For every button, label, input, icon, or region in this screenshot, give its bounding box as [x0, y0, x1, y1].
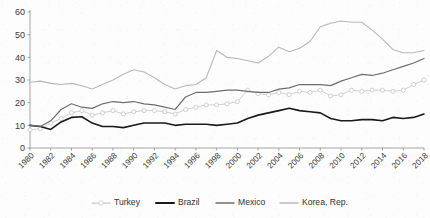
legend-label-korea-rep: Korea, Rep. — [302, 197, 348, 207]
series-marker — [121, 112, 125, 116]
series-marker — [401, 88, 405, 92]
series-marker — [132, 110, 136, 114]
series-lines — [28, 21, 426, 132]
series-marker — [412, 82, 416, 86]
series-marker — [215, 103, 219, 107]
series-marker — [163, 110, 167, 114]
series-marker — [101, 111, 105, 115]
series-marker — [329, 94, 333, 98]
series-marker — [28, 128, 32, 132]
series-marker — [69, 111, 73, 115]
x-tick-label: 1984 — [58, 151, 78, 171]
series-line-mexico — [30, 58, 424, 126]
x-tick-label: 2012 — [348, 151, 368, 171]
x-tick-label: 1986 — [79, 151, 99, 171]
series-marker — [360, 89, 364, 93]
chart-axes — [30, 10, 424, 148]
legend-label-brazil: Brazil — [178, 197, 200, 207]
legend-label-turkey: Turkey — [114, 197, 141, 207]
y-tick-label: 0 — [20, 143, 25, 153]
series-marker — [308, 90, 312, 94]
y-tick-label: 50 — [15, 30, 25, 40]
x-tick-label: 2010 — [328, 151, 348, 171]
series-marker — [80, 109, 84, 113]
x-tick-label: 1982 — [37, 151, 57, 171]
x-tick-label: 2000 — [224, 151, 244, 171]
series-marker — [318, 88, 322, 92]
line-chart-figure: 0102030405060 19801982198419861988199019… — [0, 0, 430, 218]
series-marker — [266, 93, 270, 97]
series-marker — [173, 112, 177, 116]
series-marker — [391, 89, 395, 93]
x-tick-label: 2008 — [307, 151, 327, 171]
series-marker — [349, 88, 353, 92]
x-tick-label: 1998 — [203, 151, 223, 171]
series-marker — [298, 89, 302, 93]
x-tick-label: 2016 — [390, 151, 410, 171]
series-marker — [225, 102, 229, 106]
series-marker — [380, 88, 384, 92]
x-axis-tick-labels: 1980198219841986198819901992199419961998… — [17, 148, 430, 170]
x-tick-label: 1994 — [162, 151, 182, 171]
series-marker — [152, 109, 156, 113]
y-tick-label: 20 — [15, 98, 25, 108]
series-marker — [59, 116, 63, 120]
chart-legend: TurkeyBrazilMexicoKorea, Rep. — [92, 197, 348, 207]
series-marker — [339, 93, 343, 97]
y-tick-label: 30 — [15, 75, 25, 85]
series-marker — [287, 93, 291, 97]
legend-label-mexico: Mexico — [238, 197, 265, 207]
x-tick-label: 1990 — [120, 151, 140, 171]
x-tick-label: 2004 — [266, 151, 286, 171]
x-tick-label: 2002 — [245, 151, 265, 171]
series-marker — [422, 78, 426, 82]
x-tick-label: 1988 — [100, 151, 120, 171]
x-tick-label: 2018 — [411, 151, 430, 171]
series-marker — [194, 105, 198, 109]
y-axis-tick-labels: 0102030405060 — [15, 7, 30, 153]
series-marker — [277, 90, 281, 94]
legend-swatch-marker — [99, 201, 103, 205]
series-line-brazil — [30, 108, 424, 129]
chart-canvas: 0102030405060 19801982198419861988199019… — [0, 0, 430, 218]
y-tick-label: 10 — [15, 121, 25, 131]
x-tick-label: 1992 — [141, 151, 161, 171]
x-tick-label: 2014 — [369, 151, 389, 171]
x-tick-label: 1980 — [17, 151, 37, 171]
y-tick-label: 60 — [15, 7, 25, 17]
series-marker — [183, 107, 187, 111]
series-marker — [204, 103, 208, 107]
x-tick-label: 2006 — [286, 151, 306, 171]
x-tick-label: 1996 — [183, 151, 203, 171]
series-marker — [142, 109, 146, 113]
series-line-korea-rep — [30, 21, 424, 89]
series-marker — [370, 88, 374, 92]
y-tick-label: 40 — [15, 53, 25, 63]
series-marker — [90, 113, 94, 117]
series-marker — [111, 109, 115, 113]
series-marker — [235, 99, 239, 103]
